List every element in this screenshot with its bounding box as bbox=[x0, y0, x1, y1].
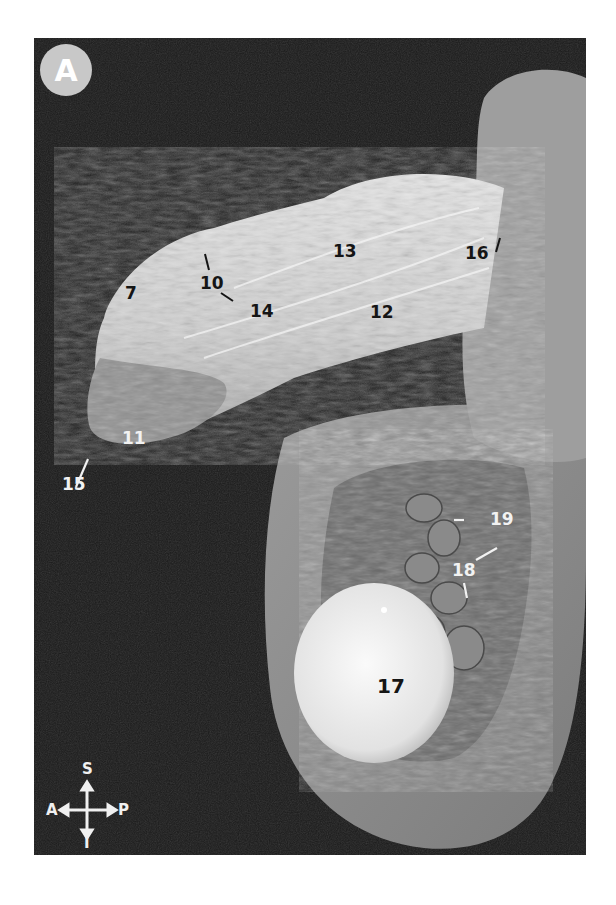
label-18: 18 bbox=[452, 562, 476, 579]
label-7: 7 bbox=[125, 285, 137, 302]
label-16: 16 bbox=[465, 245, 489, 262]
label-12: 12 bbox=[370, 304, 394, 321]
orientation-compass: S A P I bbox=[40, 772, 130, 852]
label-17: 17 bbox=[377, 676, 405, 696]
label-15: 15 bbox=[62, 476, 86, 493]
compass-superior: S bbox=[82, 762, 93, 777]
label-19: 19 bbox=[490, 511, 514, 528]
compass-anterior: A bbox=[46, 803, 58, 818]
label-11: 11 bbox=[122, 430, 146, 447]
label-14: 14 bbox=[250, 303, 274, 320]
specimen-illustration bbox=[34, 38, 586, 855]
panel-label-badge: A bbox=[40, 44, 92, 96]
anatomical-photograph bbox=[34, 38, 586, 855]
compass-posterior: P bbox=[118, 803, 129, 818]
compass-inferior: I bbox=[84, 836, 90, 851]
label-10: 10 bbox=[200, 275, 224, 292]
panel-label: A bbox=[54, 53, 77, 88]
label-13: 13 bbox=[333, 243, 357, 260]
